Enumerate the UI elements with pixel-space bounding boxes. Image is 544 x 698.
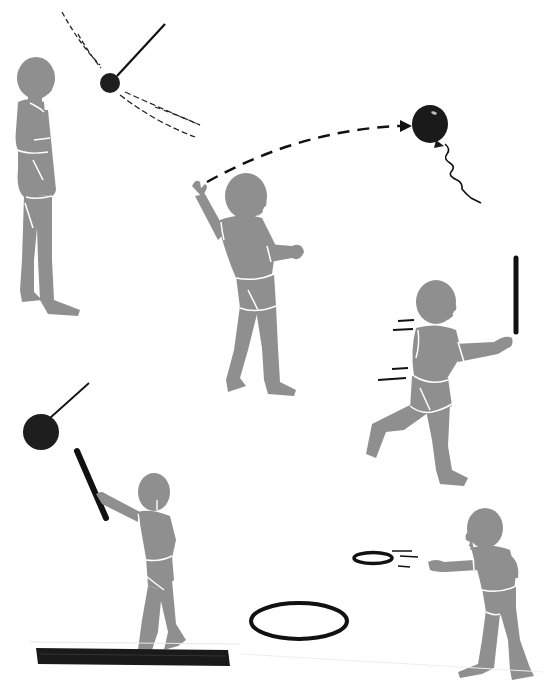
standing-child [16,57,80,316]
thrown-ring [354,551,418,567]
hoop-icon [251,603,347,639]
child-on-beam [36,451,230,666]
pendulum-ball-top [62,12,200,137]
child-tossing-balloon [192,173,304,396]
arrow-head-icon [400,120,412,132]
activity-illustration [0,0,544,698]
child-running-with-stick [366,258,516,486]
child-throwing-ring [428,508,534,680]
motion-lines [378,320,414,380]
ball-icon [100,73,120,93]
stick-icon [77,451,106,518]
pendulum-ball-bottom [23,383,89,450]
ball-icon [23,414,59,450]
balance-beam [36,648,230,666]
ring-icon [354,553,392,564]
balloon-icon [412,105,481,203]
